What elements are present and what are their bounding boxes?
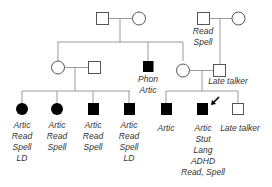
g2-son-label-2: Artic: [139, 85, 158, 95]
g3-left-child-2-circle: [51, 103, 63, 115]
svg-text:Spell: Spell: [48, 142, 68, 152]
g1-left-mother-circle: [133, 12, 146, 25]
g3-proband-square: [197, 103, 208, 115]
g3-right-child-1-square: [161, 103, 172, 115]
g1-right-mother-circle: [232, 12, 245, 25]
g2-left-father-square: [89, 62, 101, 74]
g2-right-father-square: [214, 65, 226, 77]
g3-right-child-3-square: [233, 104, 244, 115]
svg-text:Spell: Spell: [84, 142, 104, 152]
g1-left-father-square: [97, 13, 109, 25]
svg-text:Spell: Spell: [13, 142, 33, 152]
svg-text:Artic: Artic: [157, 123, 176, 133]
g1-right-father-label-2: Spell: [194, 37, 214, 47]
g2-son-label-1: Phon: [138, 74, 158, 84]
proband-arrow-icon: [211, 97, 219, 105]
svg-text:Read: Read: [12, 131, 33, 141]
svg-text:LD: LD: [17, 153, 28, 163]
g3-left-child-4-square: [124, 103, 135, 115]
svg-text:Artic: Artic: [194, 123, 213, 133]
svg-text:Late talker: Late talker: [220, 123, 261, 133]
svg-text:Artic: Artic: [48, 120, 67, 130]
svg-text:Read: Read: [47, 131, 68, 141]
g3-left-child-3-square: [88, 103, 99, 115]
g2-right-father-label: Late talker: [208, 76, 249, 86]
svg-text:Read, Spell: Read, Spell: [181, 167, 226, 177]
svg-text:Spell: Spell: [120, 142, 140, 152]
svg-text:LD: LD: [124, 153, 135, 163]
svg-text:ADHD: ADHD: [190, 156, 215, 166]
svg-text:Artic: Artic: [120, 120, 139, 130]
pedigree-diagram: Read Spell Phon Artic Late talker Artic …: [0, 0, 272, 187]
svg-text:Lang: Lang: [194, 145, 213, 155]
g2-left-mother-circle: [52, 61, 65, 74]
svg-text:Artic: Artic: [84, 120, 103, 130]
g1-right-father-square: [198, 13, 210, 25]
g1-right-father-label-1: Read: [193, 26, 214, 36]
svg-text:Stut: Stut: [195, 134, 211, 144]
g3-left-child-1-circle: [16, 103, 28, 115]
g2-right-mother-circle: [177, 64, 190, 77]
svg-text:Artic: Artic: [13, 120, 32, 130]
svg-text:Read: Read: [83, 131, 104, 141]
svg-text:Read: Read: [119, 131, 140, 141]
g2-affected-son-square: [143, 61, 154, 72]
